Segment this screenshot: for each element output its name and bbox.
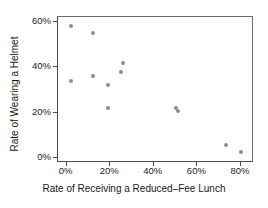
y-tick-label: 40% [32, 61, 51, 71]
scatter-plot-figure: 0%20%40%60% Rate of Wearing a Helmet 0%2… [0, 0, 268, 208]
y-axis-title: Rate of Wearing a Helmet [10, 19, 20, 169]
data-point [91, 74, 95, 78]
x-tick-label: 0% [59, 166, 73, 176]
x-tick-label: 60% [187, 166, 206, 176]
data-point [106, 106, 110, 110]
plot-area [57, 16, 253, 162]
data-point [106, 83, 110, 87]
x-tick-label: 80% [230, 166, 249, 176]
data-point [69, 24, 73, 28]
x-axis-title: Rate of Receiving a Reduced–Fee Lunch [0, 184, 268, 194]
data-point [224, 143, 228, 147]
data-point [69, 79, 73, 83]
data-point [121, 61, 125, 65]
data-point [176, 109, 180, 113]
data-point [119, 70, 123, 74]
data-point [239, 150, 243, 154]
y-axis-tick-labels: 0%20%40%60% [0, 0, 51, 208]
x-tick-label: 40% [143, 166, 162, 176]
y-tick-label: 0% [37, 153, 51, 163]
y-tick-label: 20% [32, 107, 51, 117]
x-tick-label: 20% [100, 166, 119, 176]
data-point [91, 31, 95, 35]
y-tick-label: 60% [32, 16, 51, 26]
